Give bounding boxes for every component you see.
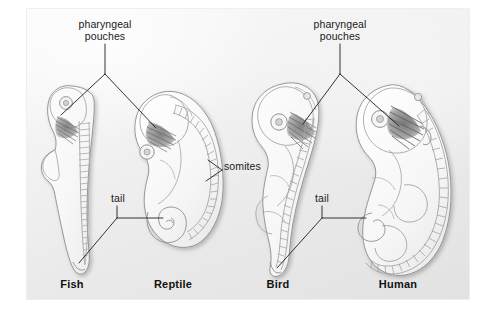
callout-line-1: pharyngeal <box>314 18 367 30</box>
embryo-reptile <box>135 91 223 247</box>
callout-leader-lines <box>61 44 399 268</box>
embryo-bird <box>252 83 319 277</box>
callout-line-2: pouches <box>320 30 360 42</box>
specimen-label-bird: Bird <box>248 278 308 290</box>
callout-line-1: pharyngeal <box>79 18 132 30</box>
callout-somites: somites <box>224 161 272 173</box>
callout-pharyngeal-pouches-right: pharyngeal pouches <box>293 19 387 42</box>
embryo-fish <box>41 86 94 274</box>
callout-tail-right: tail <box>300 193 344 205</box>
callout-pharyngeal-pouches-left: pharyngeal pouches <box>58 19 152 42</box>
callout-line-2: pouches <box>85 30 125 42</box>
specimen-label-human: Human <box>364 278 432 290</box>
specimen-label-fish: Fish <box>42 278 102 290</box>
embryo-human <box>356 85 451 276</box>
callout-tail-left: tail <box>96 193 140 205</box>
embryo-comparison-figure: pharyngeal pouches pharyngeal pouches so… <box>0 0 494 320</box>
specimen-label-reptile: Reptile <box>138 278 208 290</box>
